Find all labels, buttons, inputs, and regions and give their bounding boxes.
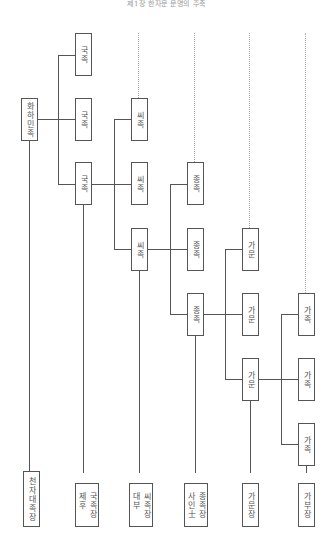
page-header: 제1장 한자문 문명의 주축 xyxy=(0,0,333,8)
node-label: 씨족 xyxy=(135,241,144,259)
connector xyxy=(281,444,298,445)
leader-label-sub: 대부 xyxy=(131,492,140,519)
continuation-dots xyxy=(138,33,139,98)
connector xyxy=(258,379,298,380)
node-guk-2: 국족 xyxy=(75,98,92,141)
connector xyxy=(114,249,131,250)
connector xyxy=(58,55,59,185)
connector xyxy=(225,379,242,380)
connector xyxy=(170,184,171,315)
connector xyxy=(281,314,298,315)
continuation-dots xyxy=(249,33,250,228)
node-label: 화하민족 xyxy=(25,102,34,138)
connector xyxy=(170,314,187,315)
leader-label-group: 종족장 사인士 xyxy=(186,492,206,519)
node-label: 가족 xyxy=(302,436,311,454)
leader-label-sub: 제후 xyxy=(77,492,86,519)
leader-jong: 종족장 사인士 xyxy=(184,483,208,527)
leader-gabu: 가부장 xyxy=(298,483,315,527)
connector xyxy=(250,400,251,473)
node-label: 가족 xyxy=(302,371,311,389)
leader-label: 국족장 xyxy=(88,492,97,519)
node-label: 가문 xyxy=(246,306,255,324)
connector xyxy=(83,205,84,473)
leader-label: 종족장 xyxy=(197,492,206,519)
node-label: 가족 xyxy=(302,306,311,324)
node-label: 가문 xyxy=(246,371,255,389)
continuation-dots xyxy=(194,33,195,162)
node-label: 국족 xyxy=(79,111,88,129)
node-label: 국족 xyxy=(79,46,88,64)
node-guk-1: 국족 xyxy=(75,33,92,76)
leader-gamun: 가문장 xyxy=(242,483,259,527)
connector xyxy=(139,270,140,473)
node-label: 씨족 xyxy=(135,111,144,129)
node-jong-3: 종족 xyxy=(187,293,204,336)
leader-label-group: 국족장 제후 xyxy=(77,492,97,519)
node-root: 화하민족 xyxy=(21,98,38,141)
connector xyxy=(225,249,242,250)
node-ssi-3: 씨족 xyxy=(131,228,148,271)
connector xyxy=(203,314,242,315)
connector xyxy=(195,335,196,473)
node-ssi-2: 씨족 xyxy=(131,162,148,205)
continuation-dots xyxy=(305,33,306,293)
connector xyxy=(58,184,75,185)
leader-label-group: 씨족장 대부 xyxy=(131,492,151,519)
node-label: 국족 xyxy=(79,175,88,193)
leader-label: 천자대족장 xyxy=(27,477,36,522)
connector xyxy=(92,184,131,185)
node-label: 씨족 xyxy=(135,175,144,193)
node-jong-1: 종족 xyxy=(187,162,204,205)
node-ssi-1: 씨족 xyxy=(131,98,148,141)
node-label: 가문 xyxy=(246,241,255,259)
connector xyxy=(58,55,75,56)
leader-emperor: 천자대족장 xyxy=(23,471,40,527)
node-gamun-1: 가문 xyxy=(242,228,259,271)
node-gajok-3: 가족 xyxy=(298,423,315,466)
leader-label: 가문장 xyxy=(246,492,255,519)
node-gajok-1: 가족 xyxy=(298,293,315,336)
leader-guk: 국족장 제후 xyxy=(75,483,99,527)
connector xyxy=(147,249,187,250)
node-jong-2: 종족 xyxy=(187,228,204,271)
node-gamun-2: 가문 xyxy=(242,293,259,336)
node-label: 종족 xyxy=(191,175,200,193)
connector xyxy=(29,140,30,473)
connector xyxy=(281,314,282,445)
connector xyxy=(225,249,226,380)
node-label: 종족 xyxy=(191,306,200,324)
node-guk-3: 국족 xyxy=(75,162,92,205)
connector xyxy=(306,465,307,473)
leader-label: 가부장 xyxy=(302,492,311,519)
connector xyxy=(170,184,187,185)
node-gajok-2: 가족 xyxy=(298,358,315,401)
connector xyxy=(37,119,75,120)
leader-ssi: 씨족장 대부 xyxy=(129,483,153,527)
leader-label: 씨족장 xyxy=(142,492,151,519)
connector xyxy=(114,119,115,250)
leader-label-sub: 사인士 xyxy=(186,492,195,519)
connector xyxy=(114,119,131,120)
node-gamun-3: 가문 xyxy=(242,358,259,401)
node-label: 종족 xyxy=(191,241,200,259)
